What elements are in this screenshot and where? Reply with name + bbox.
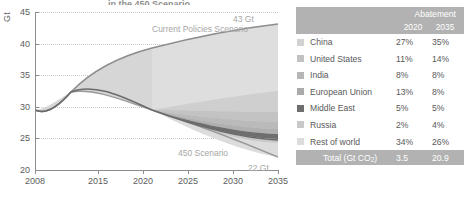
plot-area [35, 12, 278, 170]
x-tick-2035 [278, 170, 279, 174]
legend-swatch-rest-of-world [297, 138, 304, 145]
table-cell-label: United States [310, 55, 362, 64]
legend-swatch-united-states [297, 55, 304, 62]
annotation-22gt: 22 Gt [248, 163, 269, 173]
table-total-label: Total (Gt CO2) [323, 154, 377, 163]
table-cell-2035: 5% [432, 104, 458, 113]
x-tick-label-2015: 2015 [78, 176, 118, 186]
y-tick-label-20: 20 [0, 165, 30, 175]
legend-swatch-european-union [297, 88, 304, 95]
table-cell-label: Middle East [310, 104, 355, 113]
figure-root: in the 450 Scenario Gt [0, 0, 467, 198]
table-header: Abatement 2020 2035 [296, 7, 464, 34]
y-axis [35, 12, 36, 170]
table-cell-label: European Union [310, 88, 372, 97]
y-tick-25 [35, 138, 39, 139]
y-tick-label-30: 30 [0, 102, 30, 112]
y-tick-label-40: 40 [0, 39, 30, 49]
total-label-prefix: Total (Gt CO [323, 153, 371, 163]
emissions-chart: Gt [0, 0, 290, 198]
y-tick-30 [35, 107, 39, 108]
x-tick-label-2008: 2008 [15, 176, 55, 186]
y-tick-label-35: 35 [0, 70, 30, 80]
table-cell-2035: 8% [432, 71, 458, 80]
x-tick-label-2035: 2035 [258, 176, 298, 186]
x-tick-2008 [35, 170, 36, 174]
table-cell-2020: 5% [396, 104, 422, 113]
table-row[interactable]: European Union 13% 8% [296, 84, 464, 101]
table-row[interactable]: Rest of world 34% 26% [296, 134, 464, 151]
table-row[interactable]: Russia 2% 4% [296, 117, 464, 134]
x-tick-label-2030: 2030 [213, 176, 253, 186]
table-cell-2020: 13% [396, 88, 422, 97]
legend-swatch-india [297, 72, 304, 79]
x-tick-label-2025: 2025 [168, 176, 208, 186]
table-total-row: Total (Gt CO2) 3.5 20.9 [296, 150, 464, 165]
table-header-2035: 2035 [432, 23, 458, 31]
legend-swatch-russia [297, 121, 304, 128]
abatement-table: Abatement 2020 2035 China 27% 35% United… [296, 7, 464, 165]
table-cell-2035: 26% [432, 138, 458, 147]
legend-swatch-middle-east [297, 105, 304, 112]
table-cell-label: Rest of world [310, 138, 360, 147]
table-cell-label: India [310, 71, 329, 80]
x-tick-2025 [188, 170, 189, 174]
x-tick-label-2020: 2020 [123, 176, 163, 186]
table-header-years: 2020 2035 [296, 21, 464, 34]
y-tick-45 [35, 12, 39, 13]
total-label-suffix: ) [374, 153, 377, 163]
annotation-current-policies: Current Policies Scenario [152, 24, 242, 35]
table-row[interactable]: India 8% 8% [296, 67, 464, 84]
y-tick-label-45: 45 [0, 7, 30, 17]
annotation-450-scenario: 450 Scenario [178, 148, 228, 158]
x-tick-2020 [143, 170, 144, 174]
table-row[interactable]: Middle East 5% 5% [296, 100, 464, 117]
table-row[interactable]: United States 11% 14% [296, 51, 464, 68]
table-cell-2035: 35% [432, 38, 458, 47]
y-tick-label-25: 25 [0, 133, 30, 143]
table-cell-2020: 11% [396, 55, 422, 64]
area-bands-svg [35, 12, 278, 170]
y-tick-35 [35, 75, 39, 76]
table-cell-2035: 14% [432, 55, 458, 64]
y-tick-40 [35, 44, 39, 45]
table-total-2020: 3.5 [396, 154, 422, 163]
table-cell-2035: 4% [432, 121, 458, 130]
table-total-2035: 20.9 [432, 154, 458, 163]
table-header-group: Abatement [296, 7, 464, 21]
x-tick-2030 [233, 170, 234, 174]
x-axis [35, 170, 278, 171]
table-cell-2020: 34% [396, 138, 422, 147]
table-header-abatement-label: Abatement [414, 10, 456, 19]
annotation-43gt: 43 Gt [233, 14, 254, 24]
x-tick-2015 [98, 170, 99, 174]
table-cell-2035: 8% [432, 88, 458, 97]
table-cell-label: China [310, 38, 332, 47]
table-row[interactable]: China 27% 35% [296, 34, 464, 51]
table-header-2020: 2020 [400, 23, 426, 31]
table-cell-2020: 8% [396, 71, 422, 80]
table-cell-2020: 2% [396, 121, 422, 130]
legend-swatch-china [297, 39, 304, 46]
table-cell-label: Russia [310, 121, 336, 130]
table-cell-2020: 27% [396, 38, 422, 47]
